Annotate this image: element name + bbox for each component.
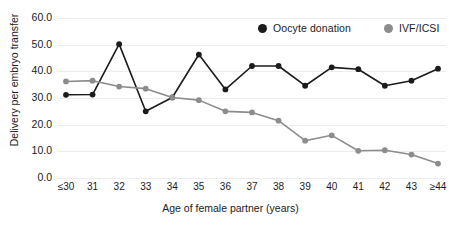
data-point — [435, 66, 441, 72]
x-tick-label: 35 — [184, 181, 214, 192]
x-tick-label: 42 — [370, 181, 400, 192]
x-tick-label: ≥44 — [423, 181, 453, 192]
data-point — [302, 83, 308, 89]
grid-line — [58, 178, 446, 179]
data-point — [355, 66, 361, 72]
data-point — [409, 152, 415, 158]
series-line-oocyte-donation — [66, 44, 438, 111]
x-tick-label: 32 — [104, 181, 134, 192]
data-point — [196, 97, 202, 103]
y-tick-label: 50.0 — [4, 38, 52, 50]
data-point — [276, 63, 282, 69]
x-tick-label: 31 — [78, 181, 108, 192]
y-tick-label: 10.0 — [4, 144, 52, 156]
y-tick-label: 60.0 — [4, 11, 52, 23]
data-point — [382, 147, 388, 153]
y-tick-label: 20.0 — [4, 118, 52, 130]
data-point — [249, 110, 255, 116]
x-tick-label: 40 — [317, 181, 347, 192]
data-point — [382, 83, 388, 89]
chart-container: Oocyte donation IVF/ICSI Delivery per em… — [0, 0, 461, 225]
data-point — [223, 87, 229, 93]
data-point — [116, 84, 122, 90]
data-point — [276, 118, 282, 124]
data-point — [116, 41, 122, 47]
x-tick-label: 34 — [157, 181, 187, 192]
x-tick-label: 43 — [396, 181, 426, 192]
x-tick-label: 33 — [131, 181, 161, 192]
data-point — [63, 92, 69, 98]
data-point — [329, 64, 335, 70]
data-point — [196, 52, 202, 58]
data-point — [143, 86, 149, 92]
plot-area — [58, 18, 446, 178]
x-tick-label: 41 — [343, 181, 373, 192]
data-point — [409, 78, 415, 84]
data-point — [63, 79, 69, 85]
data-point — [143, 108, 149, 114]
data-point — [223, 108, 229, 114]
x-tick-label: 38 — [264, 181, 294, 192]
y-tick-label: 0.0 — [4, 171, 52, 183]
data-point — [169, 95, 175, 101]
x-tick-label: 39 — [290, 181, 320, 192]
data-point — [355, 148, 361, 154]
x-tick-label: 36 — [210, 181, 240, 192]
data-point — [329, 132, 335, 138]
x-tick-label: 37 — [237, 181, 267, 192]
data-point — [90, 92, 96, 98]
data-point — [302, 138, 308, 144]
data-point — [90, 78, 96, 84]
series-layer — [58, 18, 446, 178]
y-tick-label: 30.0 — [4, 91, 52, 103]
x-tick-label: ≤30 — [51, 181, 81, 192]
data-point — [435, 161, 441, 167]
x-axis-title: Age of female partner (years) — [0, 202, 461, 214]
data-point — [249, 63, 255, 69]
y-tick-label: 40.0 — [4, 64, 52, 76]
